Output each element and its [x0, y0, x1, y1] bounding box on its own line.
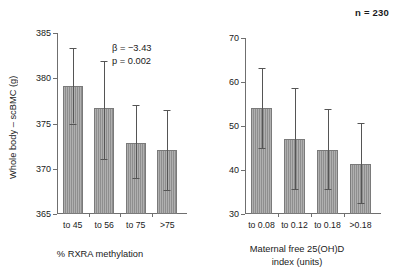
error-bar [295, 88, 296, 190]
error-bar [73, 48, 74, 123]
error-bar-cap-upper [101, 61, 108, 62]
x-axis-label: >0.18 [350, 220, 372, 230]
plot-area-left: 365370375380385to 45to 56to 75>75 [57, 33, 183, 214]
x-tick-left [89, 214, 90, 217]
x-tick-left [120, 214, 121, 217]
y-tick-right [241, 214, 245, 215]
x-axis-label: to 0.08 [248, 220, 275, 230]
y-tick-label-left: 370 [36, 164, 51, 174]
error-bar-cap-upper [291, 88, 298, 89]
error-bar [167, 110, 168, 191]
x-tick-left [152, 214, 153, 217]
y-tick-label-right: 50 [229, 121, 239, 131]
error-bar-cap-lower [164, 190, 171, 191]
x-axis-title-left: % RXRA methylation [0, 248, 200, 261]
y-axis-line-right [245, 38, 246, 214]
error-bar-cap-lower [357, 203, 364, 204]
y-tick-left [53, 78, 57, 79]
y-tick-label-right: 30 [229, 209, 239, 219]
error-bar [328, 109, 329, 189]
error-bar [136, 105, 137, 177]
x-tick-right [278, 214, 279, 217]
x-tick-right [344, 214, 345, 217]
error-bar-cap-lower [258, 148, 265, 149]
y-tick-right [241, 170, 245, 171]
error-bar-cap-lower [291, 189, 298, 190]
panel-left: Whole body – scBMC (g) β = −3.43 p = 0.0… [0, 0, 200, 276]
error-bar-cap-lower [132, 178, 139, 179]
y-tick-left [53, 124, 57, 125]
y-tick-label-right: 60 [229, 77, 239, 87]
panel-right: RXRA CpG4/5 % methylation β = −3.29 p = … [197, 0, 397, 276]
error-bar-cap-upper [69, 48, 76, 49]
x-axis-title-right-line1: Maternal free 25(OH)D [197, 243, 397, 256]
y-tick-label-right: 40 [229, 165, 239, 175]
error-bar-cap-upper [132, 105, 139, 106]
y-tick-label-left: 375 [36, 119, 51, 129]
x-axis-label: >75 [160, 220, 175, 230]
y-tick-right [241, 82, 245, 83]
error-bar-cap-lower [69, 124, 76, 125]
error-bar [262, 68, 263, 148]
error-bar-cap-upper [324, 109, 331, 110]
y-tick-label-left: 365 [36, 209, 51, 219]
error-bar-cap-lower [101, 159, 108, 160]
error-bar-cap-lower [324, 189, 331, 190]
figure-container: n = 230 Whole body – scBMC (g) β = −3.43… [0, 0, 397, 276]
error-bar-cap-upper [258, 68, 265, 69]
x-tick-right [311, 214, 312, 217]
y-tick-right [241, 126, 245, 127]
y-tick-label-right: 70 [229, 33, 239, 43]
x-axis-label: to 45 [63, 220, 82, 230]
y-tick-left [53, 214, 57, 215]
y-tick-left [53, 33, 57, 34]
x-axis-title-right-line2: index (units) [197, 256, 397, 269]
error-bar [361, 123, 362, 203]
y-tick-right [241, 38, 245, 39]
y-tick-label-left: 385 [36, 28, 51, 38]
x-axis-title-right: Maternal free 25(OH)D index (units) [197, 243, 397, 268]
x-axis-label: to 56 [95, 220, 114, 230]
error-bar-cap-upper [357, 123, 364, 124]
x-axis-label: to 0.12 [281, 220, 308, 230]
y-axis-title-left: Whole body – scBMC (g) [8, 34, 18, 220]
error-bar [104, 61, 105, 159]
y-tick-left [53, 169, 57, 170]
y-axis-line-left [57, 33, 58, 214]
x-axis-label: to 0.18 [314, 220, 341, 230]
y-tick-label-left: 380 [36, 73, 51, 83]
x-axis-label: to 75 [126, 220, 145, 230]
error-bar-cap-upper [164, 110, 171, 111]
plot-area-right: 3040506070to 0.08to 0.12to 0.18>0.18 [245, 38, 377, 214]
